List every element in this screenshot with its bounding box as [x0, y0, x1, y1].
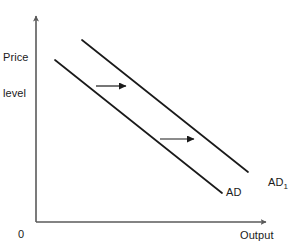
- ad1-curve-label-subscript: 1: [284, 182, 289, 191]
- ad-curve-label: AD: [226, 186, 241, 198]
- ad-curve: [55, 60, 222, 193]
- diagram-canvas: [0, 0, 289, 251]
- y-axis-label-line1: Price: [3, 51, 29, 63]
- y-axis-label-line2: level: [3, 87, 29, 99]
- x-axis-label: Output: [240, 229, 274, 241]
- ad1-curve: [82, 40, 248, 172]
- ad1-curve-label-text: AD: [268, 176, 283, 188]
- origin-label: 0: [18, 228, 24, 240]
- y-axis-label: Price level: [3, 27, 29, 123]
- ad1-curve-label: AD1: [256, 164, 288, 203]
- ad-shift-diagram: Price level Output 0 AD1 AD: [0, 0, 289, 251]
